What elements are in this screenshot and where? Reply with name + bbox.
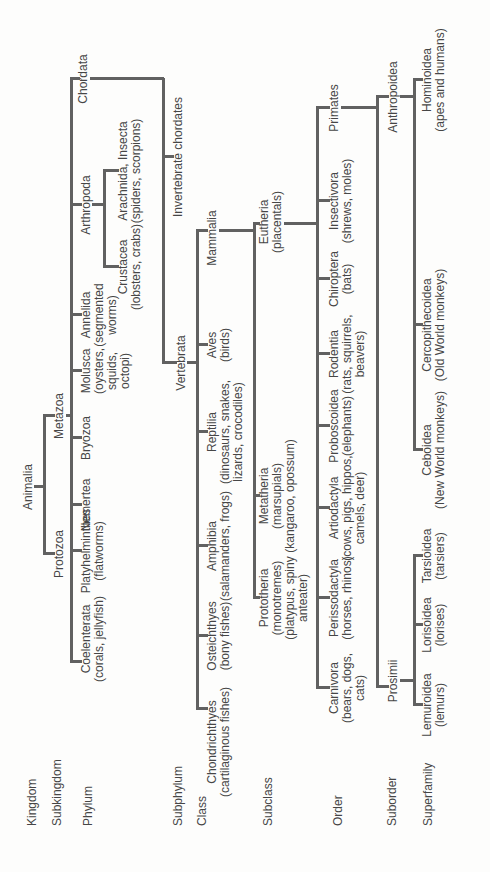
connector-tick-anthropoidea [413,323,423,326]
taxon-label-prototheria: Prototheria(monotremes)(platypus, spinya… [258,556,310,639]
connector-bar-chordata [162,78,165,364]
taxon-label-line: (placentals) [271,191,284,253]
connector-tick-vertebrata [196,707,208,710]
taxon-label-line: Mammalia [206,210,219,265]
connector-tick-eutheria [316,277,330,280]
connector-tick-prosimii [413,623,423,626]
connector-tick-mammalia [253,494,260,497]
taxon-label-osteichthyes: Osteichthyes(bony fishes) [206,601,232,670]
taxon-label-line: (horses, rhinos) [341,556,354,639]
connector-bar-mammalia [253,223,256,599]
rank-label-order: Order [332,795,345,826]
taxon-label-reptilia: Reptilia(dinosaurs, snakes,lizards, croc… [206,380,245,484]
connector-tick-eutheria [316,106,330,109]
connector-tick-eutheria [316,352,330,355]
connector-tick-mammalia [253,222,260,225]
taxon-label-lorisoidea: Lorisoidea(lorises) [421,597,447,652]
taxon-label-line: Prosimii [387,660,400,703]
connector-bar-anthropoidea [413,79,416,451]
taxon-label-ceboidea: Ceboidea(New World monkeys) [421,391,447,509]
taxon-label-coelenterata: Coelenterata(corals, jellyfish) [80,596,106,682]
connector-tick-primates [376,685,389,688]
connector-stem-mammalia [219,229,255,232]
connector-tick-vertebrata [196,430,208,433]
connector-tick-vertebrata [196,229,208,232]
taxon-label-artiodactyla: Artiodactyla(cows, pigs, hippos,camels, … [328,455,367,560]
taxon-label-line: (bats) [341,251,354,307]
taxon-label-line: octopi) [119,348,132,394]
taxon-label-chiroptera: Chiroptera(bats) [328,251,354,307]
taxon-label-line: (corals, jellyfish) [93,596,106,682]
taxon-label-line: (salamanders, frogs) [219,491,232,601]
taxon-label-line: (tarsiers) [434,529,447,584]
connector-tick-eutheria [316,686,330,689]
taxon-label-rodentia: Rodentia(rats, squirrels,beavers) [328,314,367,393]
connector-bar-animalia [43,415,46,555]
taxon-label-mammalia: Mammalia [206,210,219,265]
taxon-label-line: (elephants) [341,389,354,462]
connector-tick-metazoa [70,660,82,663]
connector-tick-metazoa [70,77,80,80]
taxon-label-line: (shrews, moles) [341,159,354,244]
taxon-label-hominoidea: Hominoidea(apes and humans) [421,28,447,131]
connector-tick-anthropoidea [413,78,423,81]
connector-tick-arthropoda [103,265,119,268]
taxon-label-line: (lobsters, crabs) [130,224,143,310]
taxon-label-prosimii: Prosimii [387,660,400,703]
taxon-label-line: (lorises) [434,597,447,652]
taxon-label-line: anteater) [297,556,310,639]
rank-label-subphylum: Subphylum [172,766,185,826]
taxon-label-line: (bony fishes) [219,601,232,670]
taxon-label-chondrichthyes: Chondrichthyes(cartilaginous fishes) [206,687,232,797]
connector-tick-primates [376,95,389,98]
connector-tick-eutheria [316,506,330,509]
taxon-label-perissodactyla: Perissodactyla(horses, rhinos) [328,556,354,639]
scanned-page: KingdomSubkingdomPhylumSubphylumClassSub… [0,0,490,872]
taxon-label-line: (flatworms) [93,509,106,594]
rank-label-subkingdom: Subkingdom [51,759,64,826]
taxon-label-annelida: Annelida(segmentedworms) [80,283,119,346]
connector-tick-eutheria [316,596,330,599]
connector-tick-prosimii [413,554,423,557]
taxon-label-line: (apes and humans) [434,28,447,131]
connector-tick-metazoa [70,313,82,316]
taxon-label-arachnida: Arachnida, Insecta(spiders, scorpions) [117,119,143,224]
connector-tick-metazoa [70,436,82,439]
taxon-label-carnivora: Carnivora(bears, dogs,cats) [328,653,367,723]
connector-bar-vertebrata [196,230,199,710]
taxon-label-molusca: Molusca(oysters,squids,octopi) [80,348,132,394]
connector-tick-metazoa [70,203,82,206]
connector-tick-metazoa [70,503,82,506]
connector-tick-chordata [162,155,174,158]
connector-tick-eutheria [316,199,330,202]
connector-tick-vertebrata [196,634,208,637]
taxon-label-line: (lemurs) [434,673,447,736]
rank-label-kingdom: Kingdom [26,779,39,826]
connector-tick-vertebrata [196,544,208,547]
connector-tick-mammalia [253,596,260,599]
tree-canvas: KingdomSubkingdomPhylumSubphylumClassSub… [0,0,490,872]
connector-bar-primates [376,96,379,688]
taxon-label-line: (spiders, scorpions) [130,119,143,224]
rank-label-class: Class [196,796,209,826]
taxon-label-cercopithecoidea: Cercopithecoidea(Old World monkeys) [421,269,447,381]
taxon-label-line: (Old World monkeys) [434,269,447,381]
connector-tick-vertebrata [196,343,208,346]
rank-label-phylum: Phylum [82,786,95,826]
connector-tick-eutheria [316,424,330,427]
taxon-label-line: lizards, crocodiles) [232,380,245,484]
taxon-label-insectivora: Insectivora(shrews, moles) [328,159,354,244]
connector-tick-anthropoidea [413,448,423,451]
taxon-label-proboscoidea: Proboscoidea(elephants) [328,389,354,462]
taxon-label-line: camels, deer) [354,455,367,560]
connector-tick-chordata [162,361,177,364]
taxon-label-crustacea: Crustacea(lobsters, crabs) [117,224,143,310]
connector-bar-prosimii [413,555,416,706]
taxon-label-line: (cartilaginous fishes) [219,687,232,797]
taxon-label-line: beavers) [354,314,367,393]
rank-label-subclass: Subclass [262,777,275,826]
taxon-label-eutheria: Eutheria(placentals) [258,191,284,253]
connector-tick-animalia [43,414,55,417]
rank-label-superfamily: Superfamily [422,763,435,826]
taxon-label-line: (birds) [219,328,232,362]
